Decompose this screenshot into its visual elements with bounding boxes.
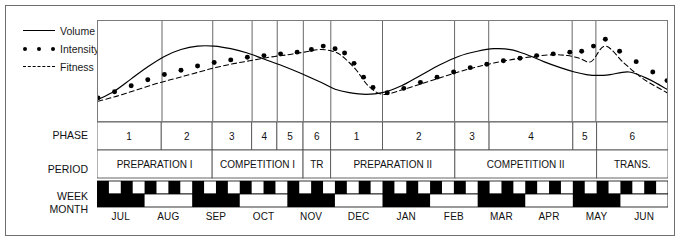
solid-line-icon xyxy=(22,25,56,37)
legend-item-fitness: Fitness xyxy=(22,58,94,76)
legend-label-volume: Volume xyxy=(56,25,95,37)
row-label-phase: PHASE xyxy=(0,129,88,141)
row-label-week: WEEK xyxy=(0,190,88,202)
periodization-chart: Volume Intensity Fitness 123456123456PRE… xyxy=(0,0,682,243)
legend-item-intensity: Intensity xyxy=(22,40,94,58)
legend: Volume Intensity Fitness xyxy=(22,22,94,76)
legend-label-fitness: Fitness xyxy=(56,61,94,73)
periodization-table: 123456123456PREPARATION ICOMPETITION ITR… xyxy=(97,122,668,225)
table-grid-canvas xyxy=(97,122,668,225)
curves-canvas xyxy=(98,21,667,121)
dashed-line-icon xyxy=(22,61,56,73)
dotted-line-icon xyxy=(22,43,56,55)
legend-item-volume: Volume xyxy=(22,22,94,40)
row-label-month: MONTH xyxy=(0,203,88,215)
row-label-period: PERIOD xyxy=(0,163,88,175)
legend-label-intensity: Intensity xyxy=(56,43,99,55)
plot-area xyxy=(97,20,668,122)
